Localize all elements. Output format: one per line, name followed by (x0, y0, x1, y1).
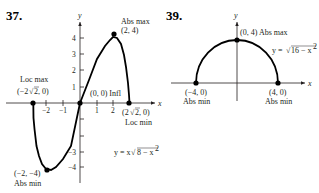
x-tick-label: 1 (95, 106, 99, 115)
abs-max-label: Abs max (121, 17, 150, 26)
loc-min-coord: (2 √ 2, 0) (122, 108, 150, 117)
inflection-label: (0, 0) Infl (90, 89, 122, 98)
svg-text:(−2: (−2 (17, 87, 28, 96)
svg-text:2, 0): 2, 0) (34, 87, 49, 96)
point-abs-min (44, 167, 49, 172)
equation-37: y = x √ 8 − x 2 (114, 144, 159, 157)
svg-text:16 − x: 16 − x (291, 46, 312, 55)
loc-min-label: Loc min (125, 118, 152, 127)
y-tick-label: 1 (72, 83, 76, 92)
point-abs-min-right (275, 80, 280, 85)
abs-max-coord: (2, 4) (121, 26, 139, 35)
x-tick-label: −1 (59, 106, 67, 115)
left-label: Abs min (183, 97, 210, 106)
svg-text:√: √ (131, 148, 136, 157)
svg-text:y =: y = (272, 46, 283, 55)
problem-number-37: 37. (6, 8, 22, 23)
figure-canvas: 37. x y −2 −1 1 2 4 3 2 (0, 0, 319, 193)
svg-text:y = x: y = x (114, 148, 131, 157)
problem-number-39: 39. (166, 8, 182, 23)
x-axis-label: x (307, 79, 312, 88)
point-loc-max (30, 100, 35, 105)
equation-39: y = √ 16 − x 2 (272, 42, 317, 55)
y-axis-label: y (233, 11, 238, 20)
y-tick-label: 3 (72, 50, 76, 59)
y-tick-label: 4 (72, 34, 76, 43)
svg-text:8 − x: 8 − x (137, 148, 154, 157)
x-tick-label: 2 (111, 106, 115, 115)
loc-max-coord: (−2 √ 2, 0) (17, 87, 49, 96)
point-loc-min (126, 100, 131, 105)
svg-text:(2: (2 (122, 108, 129, 117)
svg-text:2: 2 (155, 144, 159, 153)
loc-max-label: Loc max (20, 75, 48, 84)
left-coord: (−4, 0) (185, 88, 207, 97)
right-label: Abs min (265, 97, 292, 106)
svg-text:2, 0): 2, 0) (135, 108, 150, 117)
point-abs-min-left (193, 80, 198, 85)
y-axis-label: y (77, 11, 82, 20)
y-tick-label: 2 (72, 66, 76, 75)
point-abs-max (234, 37, 239, 42)
abs-min-label: Abs min (14, 179, 41, 188)
abs-min-coord: (−2, −4) (14, 169, 41, 178)
x-axis-label: x (157, 99, 162, 108)
x-tick-label: −2 (42, 106, 50, 115)
figure-39: 39. x y (0, 4) Abs max y = √ 16 − x 2 (−… (166, 8, 317, 106)
figure-37: 37. x y −2 −1 1 2 4 3 2 (6, 8, 162, 188)
point-inflection (77, 100, 82, 105)
point-abs-max (111, 31, 116, 36)
right-coord: (4, 0) (269, 88, 287, 97)
abs-max-label: (0, 4) Abs max (240, 28, 288, 37)
y-tick-label: −4 (68, 163, 76, 172)
svg-text:2: 2 (313, 42, 317, 51)
